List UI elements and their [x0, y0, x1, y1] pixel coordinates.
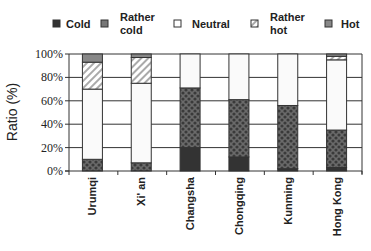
legend-swatch-rather-hot	[251, 20, 258, 27]
y-tick-label: 100%	[35, 47, 63, 61]
bar-segment-cold	[229, 157, 249, 171]
bar-hong-kong	[327, 54, 347, 171]
legend-item-cold: Cold	[53, 18, 90, 30]
bar-segment-cold	[327, 167, 347, 171]
y-tick-label: 40%	[41, 117, 63, 131]
bar-segment-neutral	[180, 54, 200, 88]
bar-segment-neutral	[82, 89, 102, 159]
bar-xi-an	[131, 54, 151, 171]
bar-segment-rather-hot	[131, 58, 151, 84]
legend-swatch-cold	[53, 20, 60, 27]
bar-segment-rather-cold	[327, 130, 347, 167]
bar-segment-rather-cold	[131, 163, 151, 171]
legend-label: Cold	[66, 18, 90, 30]
bar-segment-cold	[180, 148, 200, 171]
x-tick-label-urumqi: Urumqi	[86, 177, 98, 216]
legend-label: Rather	[120, 11, 156, 23]
y-tick-label: 80%	[41, 70, 63, 84]
bar-segment-hot	[327, 54, 347, 56]
bar-segment-rather-cold	[229, 100, 249, 157]
x-tick-label-xi-an: Xi' an	[135, 177, 147, 206]
x-tick-label-hong-kong: Hong Kong	[331, 177, 343, 236]
bar-segment-rather-cold	[278, 105, 298, 168]
legend-swatch-rather-cold	[101, 20, 108, 27]
legend-item-rather-hot: Ratherhot	[251, 11, 306, 36]
stacked-bar-chart: ColdRathercoldNeutralRatherhotHot Ratio …	[0, 0, 371, 251]
legend-label: Rather	[270, 11, 306, 23]
y-tick-label: 60%	[41, 94, 63, 108]
bar-segment-rather-hot	[82, 62, 102, 89]
legend-item-hot: Hot	[325, 18, 360, 30]
legend-label: hot	[270, 24, 287, 36]
bars	[82, 54, 346, 171]
legend-label: Hot	[341, 18, 360, 30]
y-tick-label: 20%	[41, 141, 63, 155]
bar-segment-hot	[82, 54, 102, 62]
bar-changsha	[180, 54, 200, 171]
bar-segment-hot	[131, 54, 151, 58]
bar-urumqi	[82, 54, 102, 171]
legend-label: Neutral	[192, 18, 230, 30]
legend: ColdRathercoldNeutralRatherhotHot	[53, 11, 360, 36]
bar-chongqing	[229, 54, 249, 171]
legend-item-rather-cold: Rathercold	[101, 11, 156, 36]
y-axis-title: Ratio (%)	[4, 83, 20, 141]
y-axis-ticks: 0%20%40%60%80%100%	[35, 47, 69, 178]
x-tick-label-changsha: Changsha	[184, 176, 196, 230]
gridlines	[69, 54, 362, 174]
legend-label: cold	[120, 24, 143, 36]
legend-item-neutral: Neutral	[174, 18, 230, 30]
bar-segment-rather-hot	[327, 56, 347, 60]
x-axis-labels: UrumqiXi' anChangshaChongqingKunmingHong…	[86, 176, 342, 236]
legend-swatch-neutral	[174, 20, 181, 27]
bar-segment-rather-cold	[180, 88, 200, 148]
axes	[65, 54, 362, 175]
y-tick-label: 0%	[47, 164, 63, 178]
legend-swatch-hot	[325, 20, 332, 27]
x-tick-label-chongqing: Chongqing	[233, 177, 245, 235]
bar-segment-neutral	[131, 83, 151, 163]
bar-segment-rather-cold	[82, 159, 102, 171]
x-tick-label-kunming: Kunming	[282, 177, 294, 225]
bar-segment-neutral	[327, 60, 347, 130]
bar-kunming	[278, 54, 298, 171]
bar-segment-neutral	[278, 54, 298, 105]
bar-segment-neutral	[229, 54, 249, 100]
